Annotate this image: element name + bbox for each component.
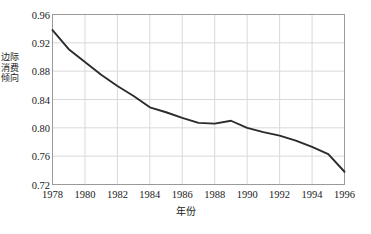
y-axis-tick-label: 0.96 [16,9,50,20]
chart-figure: 边际消费倾向 0.720.760.800.840.880.920.96 1978… [0,0,371,234]
y-axis-tick-label: 0.88 [16,66,50,77]
x-axis-tick-label: 1996 [325,189,365,200]
y-axis-tick-label: 0.92 [16,37,50,48]
y-axis-tick-label: 0.84 [16,94,50,105]
x-axis-title: 年份 [0,203,371,218]
grid-lines [53,15,345,185]
y-axis-tick-label: 0.80 [16,122,50,133]
data-series-line [53,30,345,172]
y-axis-tick-label: 0.76 [16,151,50,162]
figure-caption [0,226,371,234]
x-axis-tick-labels: 1978198019821984198619881990199219941996 [0,189,371,203]
